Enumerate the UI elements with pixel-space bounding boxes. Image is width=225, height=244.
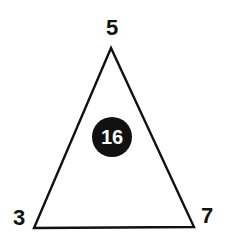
vertex-label-bottom-left: 3 xyxy=(13,207,25,229)
center-number: 16 xyxy=(101,127,123,147)
vertex-label-bottom-right: 7 xyxy=(201,205,213,227)
vertex-label-top: 5 xyxy=(106,17,118,39)
